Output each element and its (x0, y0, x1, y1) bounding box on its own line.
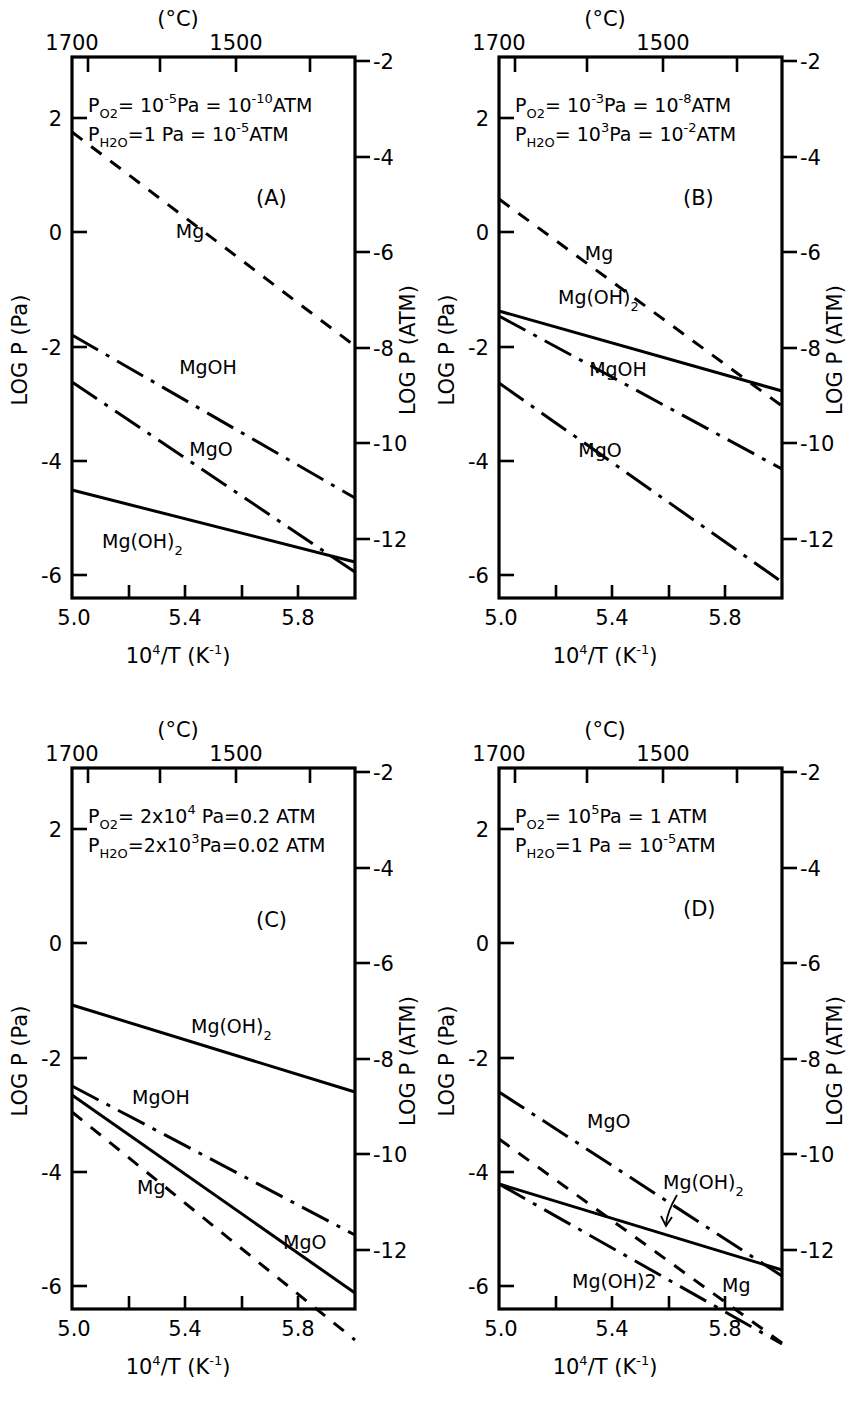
svg-text:104/T (K-1): 104/T (K-1) (126, 1353, 231, 1379)
series-line-MgOH-D (499, 1184, 782, 1344)
panel-A-svg: (°C) 1700 1500 (0, 0, 426, 710)
left-tick-label-2: 2 (49, 107, 62, 131)
right-tick-label-m4: -4 (800, 146, 821, 170)
bottom-tick-label-58: 5.8 (708, 606, 741, 630)
svg-text:LOG P (ATM): LOG P (ATM) (396, 285, 420, 415)
left-tick-label-m4: -4 (468, 450, 489, 474)
y-axis-title-right: LOG P (ATM) (823, 285, 847, 415)
right-tick-label-m4: -4 (373, 146, 394, 170)
x-axis-title: 104/T (K-1) (553, 1353, 658, 1379)
bottom-tickmarks (129, 585, 298, 598)
bottom-tickmarks (129, 1296, 298, 1309)
curve-label-Mg-A: Mg (176, 220, 204, 242)
left-tick-label-2: 2 (476, 818, 489, 842)
left-tickmarks (72, 118, 87, 575)
bottom-tickmarks (556, 585, 725, 598)
bottom-tick-label-50: 5.0 (57, 606, 90, 630)
left-tick-label-0: 0 (476, 221, 489, 245)
svg-text:104/T (K-1): 104/T (K-1) (553, 642, 658, 668)
panel-label-C: (C) (256, 908, 287, 932)
curve-label-MgO-C: MgO (283, 1231, 326, 1253)
right-tick-label-m10: -10 (373, 1143, 407, 1167)
svg-text:LOG P (ATM): LOG P (ATM) (823, 996, 847, 1126)
left-tick-label-m4: -4 (41, 450, 62, 474)
condition-line-1-C: PO2= 2x104 Pa=0.2 ATM (88, 802, 316, 832)
curve-label-MgOH-B: MgOH (589, 358, 647, 380)
right-title-main: LOG P (396, 352, 420, 415)
condition-line-2-A: PH2O=1 Pa = 10-5ATM (88, 120, 289, 150)
x-axis-title: 104/T (K-1) (126, 1353, 231, 1379)
x-title-end: ) (222, 644, 230, 668)
panel-label-D: (D) (683, 897, 716, 921)
top-axis-unit: (°C) (584, 718, 626, 742)
right-tick-label-m6: -6 (373, 241, 394, 265)
x-title-base: 10 (126, 644, 153, 668)
condition-line-2-B: PH2O= 103Pa = 10-2ATM (515, 120, 736, 150)
y-axis-title-right: LOG P (ATM) (396, 996, 420, 1126)
right-tick-label-m2: -2 (800, 50, 821, 74)
right-title-unit: (ATM) (396, 285, 420, 345)
y-axis-title-left: LOG P (Pa) (435, 1006, 459, 1117)
series-line-MgO-C (72, 1095, 355, 1293)
right-tickmarks (782, 61, 797, 539)
y-axis-title-left: LOG P (Pa) (8, 1006, 32, 1117)
series-line-Mg-A (72, 132, 355, 346)
left-tick-label-0: 0 (49, 221, 62, 245)
svg-text:LOG P (ATM): LOG P (ATM) (823, 285, 847, 415)
right-tick-label-m10: -10 (800, 432, 834, 456)
series-line-MgO-B (499, 383, 782, 582)
left-tick-label-m6: -6 (41, 1275, 62, 1299)
curve-label-Mg-D: Mg (722, 1274, 750, 1296)
panel-D: (°C) 1700 1500 2 0 (427, 711, 853, 1421)
curve-label-Mg-C: Mg (137, 1176, 165, 1198)
left-tickmarks (499, 118, 514, 575)
right-tick-label-m12: -12 (373, 1239, 407, 1263)
left-tick-label-m4: -4 (468, 1161, 489, 1185)
bottom-tick-label-58: 5.8 (281, 1317, 314, 1341)
panel-B-svg: (°C) 1700 1500 2 0 (427, 0, 853, 710)
svg-text:LOG P (Pa): LOG P (Pa) (435, 1006, 459, 1117)
right-tick-label-m8: -8 (373, 337, 394, 361)
right-tick-label-m6: -6 (800, 241, 821, 265)
svg-text:LOG P (Pa): LOG P (Pa) (435, 295, 459, 406)
panel-C: (°C) 1700 1500 2 0 (0, 711, 426, 1421)
top-tick-label-1500: 1500 (636, 31, 689, 55)
panel-A: (°C) 1700 1500 (0, 0, 426, 710)
curve-label-MgO-D: MgO (587, 1110, 630, 1132)
y-axis-title-left: LOG P (Pa) (435, 295, 459, 406)
right-tick-label-m8: -8 (373, 1048, 394, 1072)
panel-D-svg: (°C) 1700 1500 2 0 (427, 711, 853, 1421)
right-tick-label-m10: -10 (373, 432, 407, 456)
panel-B: (°C) 1700 1500 2 0 (427, 0, 853, 710)
bottom-tick-label-58: 5.8 (708, 1317, 741, 1341)
curve-label-MgOH-A: MgOH (179, 356, 237, 378)
curve-label-MgOH2-B: Mg(OH)2 (558, 286, 639, 314)
right-tick-label-m6: -6 (373, 952, 394, 976)
right-tick-label-m8: -8 (800, 1048, 821, 1072)
right-tick-label-m4: -4 (373, 857, 394, 881)
y-axis-title-right: LOG P (ATM) (823, 996, 847, 1126)
condition-line-1-A: PO2= 10-5Pa = 10-10ATM (88, 91, 312, 121)
series-line-Mg-C (72, 1112, 355, 1340)
curve-label-MgOH2-C: Mg(OH)2 (191, 1015, 272, 1043)
top-tickmarks (88, 768, 310, 783)
svg-text:LOG P (Pa): LOG P (Pa) (8, 295, 32, 406)
right-tick-label-m10: -10 (800, 1143, 834, 1167)
top-tick-label-1700: 1700 (472, 31, 525, 55)
condition-line-2-D: PH2O=1 Pa = 10-5ATM (515, 831, 716, 861)
left-tick-label-0: 0 (49, 932, 62, 956)
curve-label-MgOH2-A: Mg(OH)2 (102, 530, 183, 558)
condition-line-1-D: PO2= 105Pa = 1 ATM (515, 802, 707, 832)
curve-label-MgO-B: MgO (578, 439, 621, 461)
left-tick-label-2: 2 (476, 107, 489, 131)
left-tick-label-m6: -6 (41, 564, 62, 588)
right-tick-label-m6: -6 (800, 952, 821, 976)
svg-text:104/T (K-1): 104/T (K-1) (126, 642, 231, 668)
left-tick-label-m4: -4 (41, 1161, 62, 1185)
left-tick-label-0: 0 (476, 932, 489, 956)
left-title-unit: (Pa) (8, 295, 32, 336)
left-tick-label-m2: -2 (41, 336, 62, 360)
top-tick-label-1700: 1700 (472, 742, 525, 766)
bottom-tick-label-58: 5.8 (281, 606, 314, 630)
right-tickmarks (782, 772, 797, 1250)
